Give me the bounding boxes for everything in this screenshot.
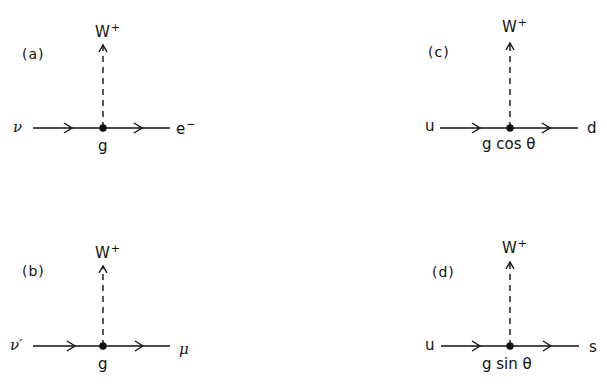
outgoing-particle-d: s [589,337,598,355]
particle-symbol: s [589,338,597,356]
incoming-particle-a: ν [13,120,22,135]
boson-charge: + [518,237,527,250]
boson-charge: + [111,21,120,34]
arrow-up-icon [99,266,107,273]
diagram-c [440,43,578,133]
boson-charge: + [111,242,120,255]
boson-charge: + [518,16,527,29]
outgoing-particle-a: e− [176,119,195,137]
outgoing-particle-c: d [587,118,598,136]
panel-label-d: (d) [432,265,455,279]
coupling-label-d: g sin θ [482,357,532,372]
diagram-a [33,45,170,133]
coupling-label-b: g [98,357,108,372]
diagram-b [33,266,170,351]
boson-symbol: W [502,239,517,257]
boson-symbol: W [95,244,110,262]
particle-symbol: μ [179,340,189,358]
particle-symbol: d [587,119,597,137]
vertex-dot [507,343,513,349]
boson-label-c: W+ [502,17,527,35]
coupling-label-a: g [98,139,108,154]
incoming-particle-d: u [425,338,435,353]
feynman-diagrams-canvas [0,0,607,386]
outgoing-particle-b: μ [179,339,190,357]
vertex-dot [507,125,513,131]
diagram-d [441,262,579,351]
panel-label-a: (a) [22,47,45,61]
boson-label-d: W+ [502,238,527,256]
boson-symbol: W [95,23,110,41]
boson-label-b: W+ [95,243,120,261]
vertex-dot [100,125,106,131]
incoming-particle-b: ν′ [10,338,23,353]
boson-symbol: W [502,18,517,36]
boson-label-a: W+ [95,22,120,40]
particle-symbol: e [176,120,185,138]
particle-charge: − [186,118,195,131]
panel-label-c: (c) [428,45,450,59]
panel-label-b: (b) [22,264,45,278]
coupling-label-c: g cos θ [482,137,535,152]
vertex-dot [100,343,106,349]
incoming-particle-c: u [425,119,435,134]
